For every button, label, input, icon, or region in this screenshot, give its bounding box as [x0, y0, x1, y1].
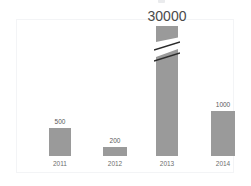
- bar-column-2011: 500: [49, 119, 71, 157]
- bar-2011: [49, 128, 71, 156]
- bar-value-label-2013: 30000: [148, 9, 187, 23]
- bar-column-2012: 200: [103, 138, 127, 157]
- bar-column-2013: 30000: [156, 9, 178, 156]
- broken-bar-2013: [156, 26, 178, 156]
- chart-frame: 5002011200201230000201310002014: [16, 19, 234, 173]
- bar-column-2014: 1000: [211, 102, 235, 157]
- bar-value-label-2012: 200: [110, 138, 121, 145]
- category-label-2012: 2012: [95, 161, 135, 168]
- bar-segment-lower-2013: [156, 49, 178, 156]
- bar-segment-upper-2013: [156, 26, 178, 42]
- category-label-2011: 2011: [41, 161, 79, 168]
- bar-value-label-2011: 500: [55, 119, 66, 126]
- category-label-2014: 2014: [203, 161, 243, 168]
- bar-value-label-2014: 1000: [216, 102, 230, 109]
- bar-2014: [211, 111, 235, 156]
- category-label-2013: 2013: [148, 161, 186, 168]
- plot-area: 5002011200201230000201310002014: [17, 20, 233, 172]
- bar-2012: [103, 147, 127, 156]
- chart-screenshot: 5002011200201230000201310002014: [0, 0, 251, 186]
- top-edge-artifact: [158, 0, 165, 3]
